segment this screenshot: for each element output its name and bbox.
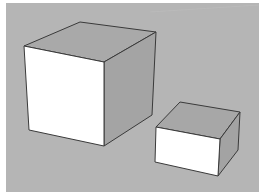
large-box-front-face[interactable] xyxy=(24,46,104,146)
scene-canvas[interactable] xyxy=(0,0,259,192)
large-box[interactable] xyxy=(24,22,156,146)
small-box[interactable] xyxy=(155,102,240,176)
window-frame: 3D modeling viewport showing a large cub… xyxy=(0,0,259,192)
horizon-guide-line xyxy=(150,5,259,12)
